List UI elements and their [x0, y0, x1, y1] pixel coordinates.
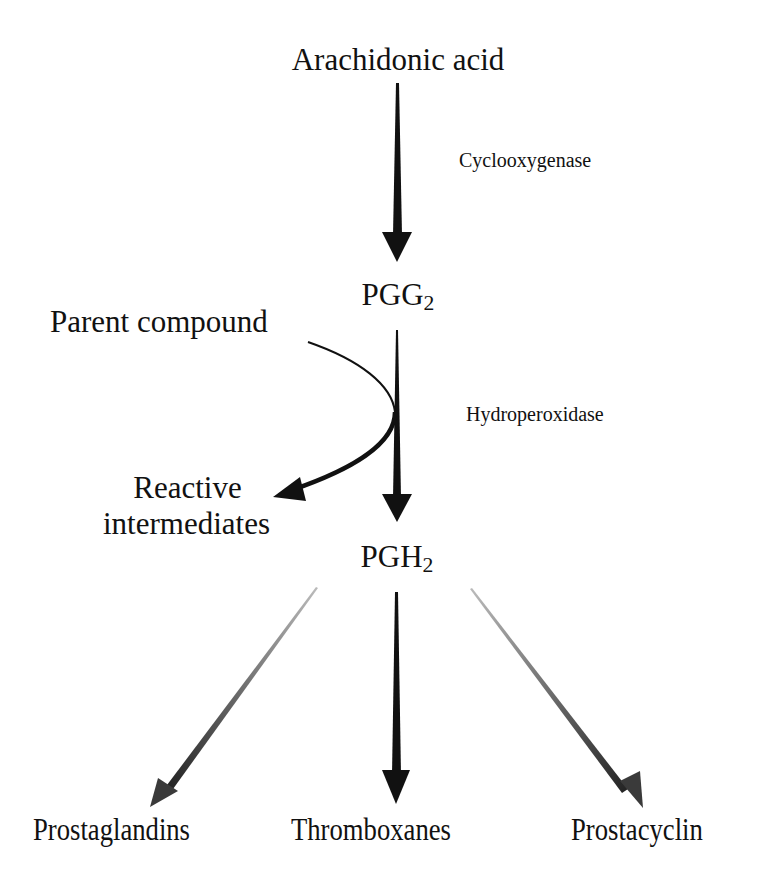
- pathway-arrows: [0, 0, 780, 872]
- pgg2-subscript: 2: [424, 291, 435, 315]
- node-pgh2: PGH2: [361, 541, 434, 577]
- arrow-pgh2-to-prostaglandins: [150, 587, 318, 807]
- arrow-pgh2-to-thromboxanes: [382, 592, 410, 804]
- node-prostacyclin: Prostacyclin: [571, 814, 703, 845]
- arrow-pgg2-to-pgh2: [382, 330, 412, 522]
- node-prostaglandins: Prostaglandins: [33, 814, 190, 845]
- enzyme-hydroperoxidase: Hydroperoxidase: [466, 404, 604, 424]
- reactive-intermediates-line1: Reactive: [103, 470, 270, 506]
- enzyme-cyclooxygenase: Cyclooxygenase: [459, 150, 591, 170]
- node-arachidonic-acid: Arachidonic acid: [292, 44, 505, 75]
- arrow-arachidonic-to-pgg2: [382, 83, 412, 262]
- reactive-intermediates-line2: intermediates: [103, 506, 270, 542]
- node-reactive-intermediates: Reactive intermediates: [103, 470, 270, 542]
- node-pgg2: PGG2: [362, 279, 435, 315]
- arrow-parent-to-reactive: [273, 342, 395, 501]
- arrow-pgh2-to-prostacyclin: [470, 588, 643, 808]
- pgg2-base: PGG: [362, 277, 424, 312]
- node-parent-compound: Parent compound: [50, 306, 268, 337]
- node-thromboxanes: Thromboxanes: [291, 814, 451, 845]
- pgh2-subscript: 2: [423, 553, 434, 577]
- pgh2-base: PGH: [361, 539, 423, 574]
